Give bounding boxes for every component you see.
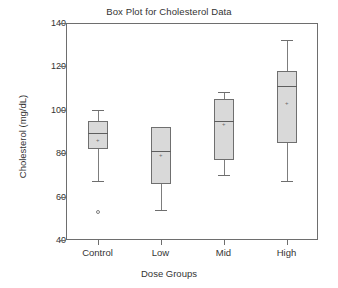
x-axis-title: Dose Groups xyxy=(0,268,338,279)
whisker-upper xyxy=(98,110,99,121)
x-tick-label-control: Control xyxy=(63,247,133,258)
mean-marker: + xyxy=(96,139,99,142)
x-tick-label-mid: Mid xyxy=(189,247,259,258)
x-tick-mark xyxy=(287,240,288,245)
cap-lower xyxy=(281,181,293,182)
whisker-lower xyxy=(161,184,162,210)
x-tick-label-low: Low xyxy=(126,247,196,258)
cap-lower xyxy=(155,210,167,211)
y-tick-mark xyxy=(60,66,66,67)
whisker-lower xyxy=(287,143,288,181)
box-iqr[interactable] xyxy=(88,121,108,149)
y-axis-ticks: 406080100120140 xyxy=(0,0,66,288)
x-tick-mark xyxy=(98,240,99,245)
cap-upper xyxy=(92,110,104,111)
box-iqr[interactable] xyxy=(214,99,234,160)
x-tick-mark xyxy=(224,240,225,245)
x-tick-mark xyxy=(161,240,162,245)
median-line xyxy=(88,133,108,134)
median-line xyxy=(277,86,297,87)
cap-lower xyxy=(218,175,230,176)
cap-upper xyxy=(218,92,230,93)
x-tick-label-high: High xyxy=(252,247,322,258)
box-iqr[interactable] xyxy=(277,71,297,144)
y-tick-mark xyxy=(60,153,66,154)
y-tick-mark xyxy=(60,23,66,24)
box-plot-figure: Box Plot for Cholesterol Data Cholestero… xyxy=(0,0,338,288)
y-tick-mark xyxy=(60,240,66,241)
y-tick-mark xyxy=(60,197,66,198)
whisker-lower xyxy=(224,160,225,175)
mean-marker: + xyxy=(222,123,225,126)
mean-marker: + xyxy=(285,102,288,105)
y-tick-mark xyxy=(60,110,66,111)
cap-upper xyxy=(281,40,293,41)
whisker-upper xyxy=(287,40,288,70)
whisker-lower xyxy=(98,149,99,182)
cap-lower xyxy=(92,181,104,182)
mean-marker: + xyxy=(159,154,162,157)
outlier-point[interactable] xyxy=(96,210,100,214)
